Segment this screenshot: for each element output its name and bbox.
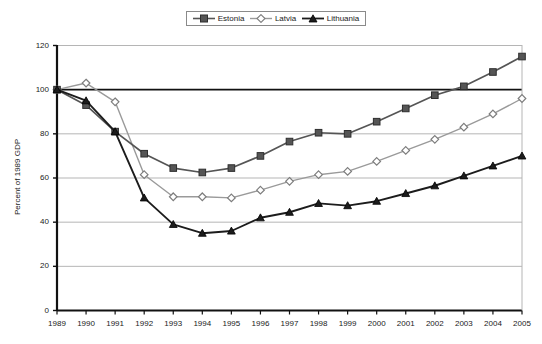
data-point-marker	[432, 92, 439, 99]
data-point-marker	[286, 138, 293, 145]
data-point-marker	[518, 95, 526, 103]
data-point-marker	[82, 79, 90, 87]
data-point-marker	[257, 153, 264, 160]
gdp-line-chart: Estonia Latvia Lithuania Percent of 1989…	[0, 0, 542, 344]
data-point-marker	[315, 171, 323, 179]
data-point-marker	[199, 169, 206, 176]
data-point-marker	[519, 53, 526, 60]
series-estonia	[54, 53, 526, 176]
series-lithuania	[53, 86, 526, 237]
data-point-marker	[373, 158, 381, 166]
plot-area	[0, 0, 542, 344]
y-tick-label: 100	[15, 85, 49, 94]
data-point-marker	[286, 178, 294, 186]
data-point-marker	[402, 147, 410, 155]
data-point-marker	[111, 98, 119, 106]
data-point-marker	[344, 168, 352, 176]
data-point-marker	[489, 110, 497, 118]
data-point-marker	[373, 118, 380, 125]
y-tick-label: 120	[15, 41, 49, 50]
series-line	[57, 57, 522, 173]
data-point-marker	[402, 105, 409, 112]
data-point-marker	[141, 150, 148, 157]
data-point-marker	[518, 152, 526, 159]
y-tick-label: 20	[15, 261, 49, 270]
y-tick-label: 80	[15, 129, 49, 138]
data-point-marker	[170, 165, 177, 172]
data-point-marker	[199, 193, 207, 201]
data-point-marker	[490, 69, 497, 76]
data-point-marker	[344, 131, 351, 138]
data-point-marker	[140, 194, 148, 201]
x-tick-label: 2005	[504, 319, 540, 328]
data-point-marker	[228, 194, 236, 202]
data-point-marker	[461, 83, 468, 90]
y-tick-label: 40	[15, 217, 49, 226]
data-point-marker	[257, 186, 265, 194]
y-tick-label: 60	[15, 173, 49, 182]
data-point-marker	[460, 123, 468, 131]
data-point-marker	[431, 136, 439, 144]
data-point-marker	[228, 165, 235, 172]
y-tick-label: 0	[15, 306, 49, 315]
data-point-marker	[315, 129, 322, 136]
